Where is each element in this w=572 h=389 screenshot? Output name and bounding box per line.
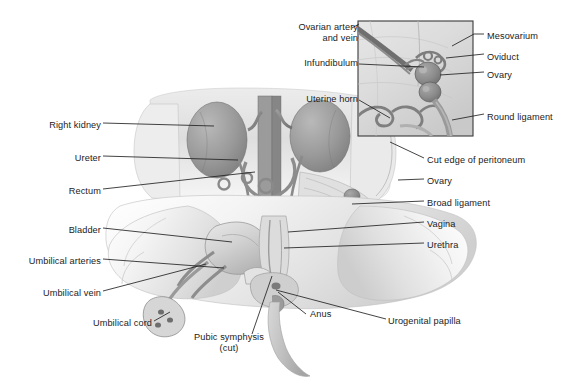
- label-anus: Anus: [310, 309, 331, 320]
- label-pubic-symphysis-line2: (cut): [186, 343, 272, 354]
- leader-ovary-main: [398, 179, 424, 180]
- ovary-shape-inset-lower: [419, 82, 441, 102]
- label-ureter: Ureter: [60, 153, 101, 164]
- anus-shape: [272, 282, 281, 289]
- label-cut-edge-of-peritoneum: Cut edge of peritoneum: [427, 155, 525, 166]
- label-bladder: Bladder: [57, 225, 101, 236]
- inset-label-uterine-horn: Uterine horn: [287, 94, 358, 105]
- label-pubic-symphysis: Pubic symphysis (cut): [186, 332, 272, 353]
- inset-group: [354, 21, 473, 136]
- inset-label-oviduct: Oviduct: [487, 52, 519, 63]
- inset-label-infundibulum: Infundibulum: [283, 58, 358, 69]
- label-urogenital-papilla: Urogenital papilla: [388, 316, 461, 327]
- label-umbilical-arteries: Umbilical arteries: [13, 256, 101, 267]
- label-ovary: Ovary: [427, 176, 452, 187]
- label-rectum: Rectum: [56, 186, 101, 197]
- label-umbilical-vein: Umbilical vein: [28, 288, 101, 299]
- inset-label-ovarian-artery-and-vein: Ovarian artery and vein: [288, 22, 358, 43]
- right-kidney-shape: [187, 102, 247, 178]
- inset-label-round-ligament: Round ligament: [487, 112, 553, 123]
- label-broad-ligament: Broad ligament: [427, 198, 490, 209]
- inset-label-ovary: Ovary: [487, 70, 512, 81]
- inset-label-ovarian-artery-line1: Ovarian artery: [288, 22, 358, 33]
- umbilical-cord-stump: [143, 297, 185, 337]
- label-urethra: Urethra: [427, 240, 458, 251]
- tail: [268, 302, 310, 376]
- inset-label-mesovarium: Mesovarium: [487, 31, 538, 42]
- label-umbilical-cord: Umbilical cord: [78, 318, 152, 329]
- figure-canvas: Ovarian artery and vein Infundibulum Ute…: [0, 0, 572, 389]
- label-right-kidney: Right kidney: [35, 120, 101, 131]
- label-pubic-symphysis-line1: Pubic symphysis: [186, 332, 272, 343]
- label-vagina: Vagina: [427, 219, 456, 230]
- inset-label-ovarian-artery-line2: and vein: [288, 33, 358, 44]
